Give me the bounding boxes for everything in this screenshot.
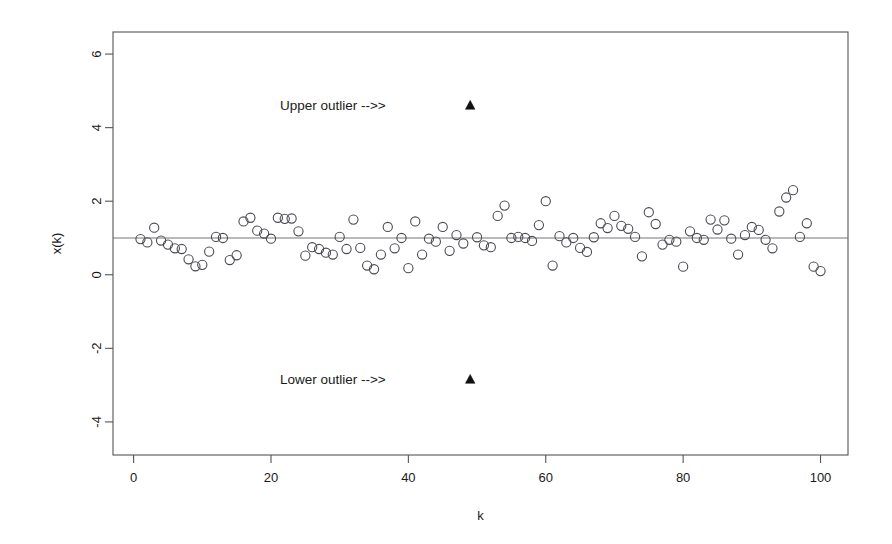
data-point (500, 201, 509, 210)
data-point (727, 234, 736, 243)
data-point (156, 236, 165, 245)
outlier-annotation: Lower outlier -->> (280, 372, 386, 387)
data-point (637, 252, 646, 261)
data-point (301, 251, 310, 260)
data-point (342, 244, 351, 253)
y-tick-label: 6 (90, 50, 105, 57)
y-tick-label: -4 (90, 416, 105, 428)
x-tick-label: 20 (264, 470, 278, 485)
data-point (541, 197, 550, 206)
data-point (576, 243, 585, 252)
data-point (246, 213, 255, 222)
data-point (294, 227, 303, 236)
outlier-annotation: Upper outlier -->> (280, 98, 386, 113)
data-point (644, 208, 653, 217)
y-tick-label: -2 (90, 343, 105, 355)
data-point (404, 264, 413, 273)
data-point (163, 240, 172, 249)
data-point (603, 223, 612, 232)
chart-figure: 020406080100-4-20246 kx(k)Upper outlier … (0, 0, 892, 544)
data-point (809, 262, 818, 271)
data-point (706, 215, 715, 224)
data-point (376, 250, 385, 259)
data-point (383, 222, 392, 231)
data-point (761, 235, 770, 244)
x-tick-label: 60 (539, 470, 553, 485)
y-tick-label: 4 (90, 124, 105, 131)
data-point (356, 243, 365, 252)
data-point (596, 219, 605, 228)
data-point (582, 247, 591, 256)
y-axis-title: x(k) (49, 233, 64, 255)
data-point (733, 250, 742, 259)
data-point (411, 217, 420, 226)
data-point (349, 215, 358, 224)
data-point (782, 193, 791, 202)
x-tick-label: 100 (810, 470, 832, 485)
data-point (225, 255, 234, 264)
data-point (205, 247, 214, 256)
data-point (232, 251, 241, 260)
x-tick-label: 40 (401, 470, 415, 485)
data-point (610, 211, 619, 220)
data-point (548, 261, 557, 270)
outlier-marker (465, 100, 475, 109)
scatter-plot: 020406080100-4-20246 kx(k)Upper outlier … (0, 0, 892, 544)
data-point (679, 262, 688, 271)
data-point (150, 223, 159, 232)
data-point (630, 232, 639, 241)
data-point (768, 244, 777, 253)
data-point (472, 233, 481, 242)
data-point (651, 219, 660, 228)
data-point (438, 222, 447, 231)
data-point (363, 261, 372, 270)
data-point (720, 216, 729, 225)
data-point (459, 239, 468, 248)
x-tick-label: 80 (676, 470, 690, 485)
data-point (369, 265, 378, 274)
data-point (335, 232, 344, 241)
data-point (493, 211, 502, 220)
data-point (788, 186, 797, 195)
data-point (177, 244, 186, 253)
data-point (713, 225, 722, 234)
outlier-marker (465, 374, 475, 383)
data-point (184, 255, 193, 264)
y-tick-label: 2 (90, 198, 105, 205)
data-point (266, 234, 275, 243)
x-tick-label: 0 (130, 470, 137, 485)
data-point (191, 262, 200, 271)
data-point (418, 250, 427, 259)
data-point (658, 240, 667, 249)
data-point (390, 244, 399, 253)
x-axis-title: k (477, 508, 484, 523)
data-point (198, 260, 207, 269)
y-tick-label: 0 (90, 271, 105, 278)
data-point (239, 217, 248, 226)
data-point (589, 233, 598, 242)
data-point (802, 219, 811, 228)
plot-frame (113, 32, 848, 455)
data-point (534, 221, 543, 230)
data-point (562, 238, 571, 247)
data-point (795, 232, 804, 241)
data-point (775, 207, 784, 216)
data-point (816, 266, 825, 275)
data-point (287, 214, 296, 223)
data-point (445, 246, 454, 255)
